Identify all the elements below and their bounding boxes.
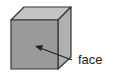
cube-front-face (11, 20, 58, 69)
face-label: face (78, 53, 103, 66)
